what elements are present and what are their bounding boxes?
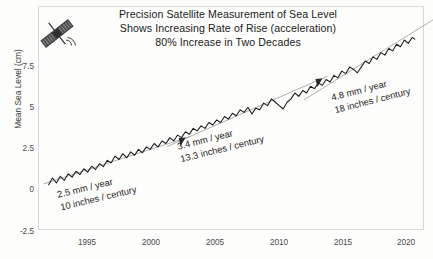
y-tick-5: 5 — [29, 103, 34, 112]
y-tick--2.5: -2.5 — [20, 227, 34, 236]
chart-page: Precision Satellite Measurement of Sea L… — [0, 0, 433, 259]
x-tick-2010: 2010 — [270, 238, 288, 247]
y-axis-ticks: 7.5 5 2.5 0 -2.5 — [0, 0, 34, 259]
x-tick-2015: 2015 — [334, 238, 352, 247]
x-tick-2005: 2005 — [206, 238, 224, 247]
y-tick-2.5: 2.5 — [23, 144, 34, 153]
x-tick-2020: 2020 — [397, 238, 415, 247]
y-tick-0: 0 — [29, 185, 34, 194]
y-tick-7.5: 7.5 — [23, 62, 34, 71]
x-tick-1995: 1995 — [78, 238, 96, 247]
x-tick-2000: 2000 — [142, 238, 160, 247]
